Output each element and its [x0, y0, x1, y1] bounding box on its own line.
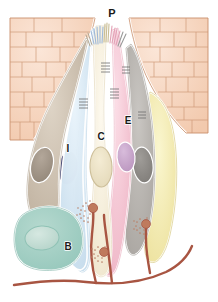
- bouton-right: [142, 220, 151, 229]
- label-P: P: [108, 7, 115, 19]
- label-E: E: [125, 115, 132, 126]
- bouton-center: [100, 248, 109, 257]
- label-B: B: [64, 241, 71, 252]
- cell-teal-B: [14, 207, 83, 271]
- bouton-left: [88, 203, 97, 212]
- label-I: I: [67, 143, 70, 154]
- taste-bud-diagram: P I C E B: [0, 0, 218, 302]
- diagram-canvas: P I C E B: [0, 0, 218, 302]
- label-C: C: [97, 131, 104, 142]
